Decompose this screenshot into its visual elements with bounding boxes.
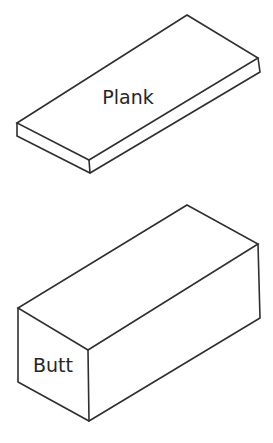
plank-shape: Plank: [17, 15, 260, 173]
plank-front-corner-edge: [89, 160, 90, 173]
diagram-canvas: Plank Butt: [0, 0, 273, 443]
plank-label: Plank: [102, 86, 153, 108]
two-boxes-diagram: Plank Butt: [0, 0, 273, 443]
butt-shape: Butt: [18, 205, 260, 421]
plank-side-faces-outline: [17, 58, 260, 173]
butt-top-face-outline: [18, 205, 258, 350]
butt-side-faces-outline: [18, 244, 260, 421]
butt-label: Butt: [33, 354, 73, 376]
butt-front-corner-edge: [88, 350, 89, 421]
